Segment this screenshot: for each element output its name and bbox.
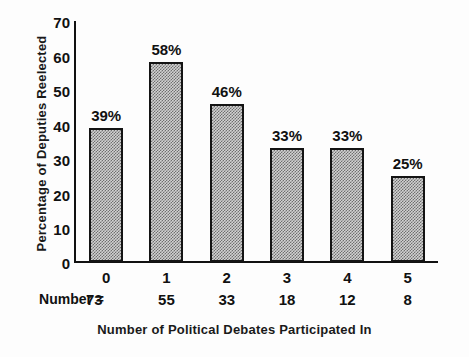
x-tick-label: 1 — [136, 270, 196, 285]
bar-value-label: 58% — [151, 42, 181, 57]
bar-slot: 39% — [76, 21, 136, 262]
group-size-value: 12 — [317, 292, 377, 307]
group-size-value: 73 — [76, 292, 136, 307]
x-tick-label: 2 — [197, 270, 257, 285]
bar-value-label: 25% — [393, 156, 423, 171]
x-tick-label: 5 — [378, 270, 438, 285]
x-axis-tick-labels: 0 1 2 3 4 5 — [76, 270, 438, 290]
bar[interactable] — [330, 148, 364, 262]
plot-area: 39% 58% 46% 33% 33% 25% — [76, 21, 438, 262]
y-tick-label: 20 — [40, 188, 70, 203]
bar[interactable] — [89, 128, 123, 262]
x-tick-label: 0 — [76, 270, 136, 285]
group-size-value: 8 — [378, 292, 438, 307]
y-tick-label: 40 — [40, 119, 70, 134]
x-axis-title: Number of Political Debates Participated… — [0, 322, 469, 337]
group-size-row: Number = 73 55 33 18 12 8 — [76, 292, 438, 312]
x-tick-label: 3 — [257, 270, 317, 285]
bar[interactable] — [149, 62, 183, 262]
bar-slot: 33% — [257, 21, 317, 262]
bar[interactable] — [270, 148, 304, 262]
y-tick-label: 10 — [40, 222, 70, 237]
bar-slot: 46% — [197, 21, 257, 262]
bar[interactable] — [391, 176, 425, 262]
bar-value-label: 46% — [212, 84, 242, 99]
bar-value-label: 33% — [332, 128, 362, 143]
bar-slot: 33% — [317, 21, 377, 262]
bar-slot: 25% — [378, 21, 438, 262]
bar-value-label: 39% — [91, 108, 121, 123]
y-tick-label: 60 — [40, 50, 70, 65]
group-size-value: 18 — [257, 292, 317, 307]
y-tick-label: 30 — [40, 153, 70, 168]
bar-chart-figure: Percentage of Deputies Reelected 70 60 5… — [0, 0, 469, 357]
bar[interactable] — [210, 104, 244, 262]
y-tick-label: 70 — [40, 15, 70, 30]
group-size-value: 55 — [136, 292, 196, 307]
bar-slot: 58% — [136, 21, 196, 262]
group-size-value: 33 — [197, 292, 257, 307]
x-tick-label: 4 — [317, 270, 377, 285]
y-tick-label: 0 — [40, 256, 70, 271]
y-tick-label: 50 — [40, 84, 70, 99]
bar-value-label: 33% — [272, 128, 302, 143]
